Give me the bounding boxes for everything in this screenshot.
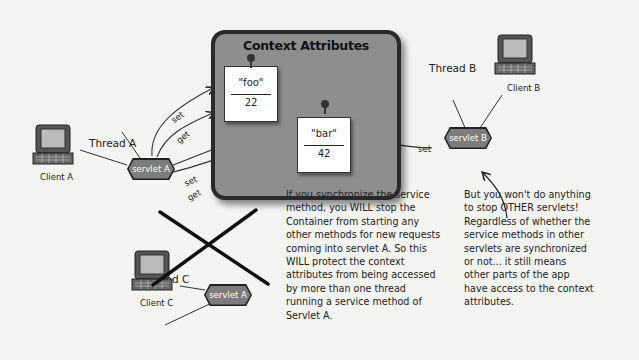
synchronize-note: If you synchronize the service method, y… bbox=[286, 188, 466, 322]
other-servlets-note: But you won't do anything to stop OTHER … bbox=[464, 188, 639, 309]
